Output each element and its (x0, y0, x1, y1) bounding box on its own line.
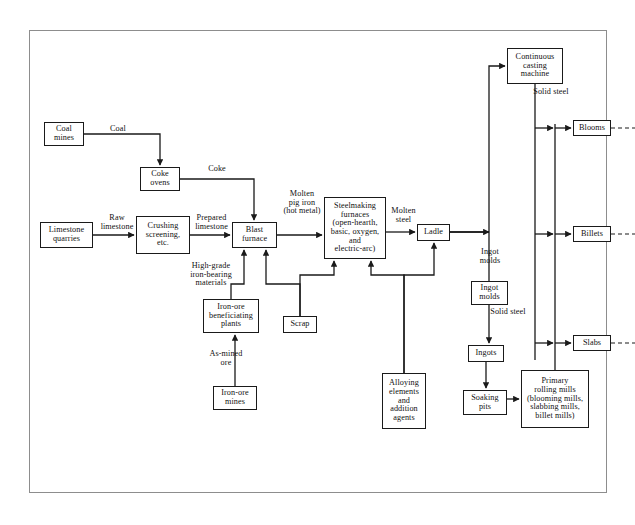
node-label-alloying: Alloying elements and addition agents (385, 379, 423, 422)
node-ingot-molds: Ingot molds (471, 281, 508, 305)
node-scrap: Scrap (283, 316, 317, 333)
node-label-ingot-molds: Ingot molds (474, 284, 505, 301)
node-label-coal-mines: Coal mines (47, 125, 81, 142)
edge-label-coke: Coke (199, 165, 235, 174)
node-limestone-quarries: Limestone quarries (40, 222, 93, 248)
node-blooms: Blooms (573, 120, 611, 136)
node-coal-mines: Coal mines (44, 122, 84, 146)
node-crushing: Crushing screening, etc. (136, 216, 190, 254)
node-label-iron-ore-benef: Iron-ore beneficiating plants (206, 303, 256, 329)
node-soaking-pits: Soaking pits (463, 390, 507, 415)
node-label-coke-ovens: Coke ovens (143, 170, 177, 187)
edge-label-raw-limestone: Raw limestone (94, 214, 140, 231)
node-label-limestone-quarries: Limestone quarries (43, 226, 90, 243)
node-label-ingots: Ingots (471, 349, 501, 358)
node-blast-furnace: Blast furnace (232, 222, 277, 248)
edge-label-coal: Coal (100, 125, 136, 134)
edge-label-ingot-molds-lbl: Ingot molds (472, 248, 508, 265)
node-label-blast-furnace: Blast furnace (235, 226, 274, 243)
node-slabs: Slabs (573, 335, 611, 351)
node-label-steelmaking: Steelmaking furnaces (open-hearth, basic… (327, 202, 383, 254)
node-coke-ovens: Coke ovens (140, 167, 180, 191)
node-iron-ore-benef: Iron-ore beneficiating plants (203, 299, 259, 333)
node-label-slabs: Slabs (576, 339, 608, 348)
node-ladle: Ladle (417, 224, 450, 241)
node-label-soaking-pits: Soaking pits (466, 394, 504, 411)
node-label-billets: Billets (576, 230, 608, 239)
edge-label-solid-steel-top: Solid steel (527, 88, 575, 97)
node-label-primary-rolling: Primary rolling mills (blooming mills, s… (524, 377, 586, 420)
edge-label-molten-steel: Molten steel (386, 207, 421, 224)
node-billets: Billets (573, 226, 611, 242)
node-alloying: Alloying elements and addition agents (382, 373, 426, 429)
node-label-iron-ore-mines: Iron-ore mines (216, 389, 254, 406)
node-label-crushing: Crushing screening, etc. (139, 222, 187, 248)
flowchart-canvas: Coal minesCoke ovensLimestone quarriesCr… (0, 0, 635, 525)
edge-label-solid-steel-mid: Solid steel (484, 308, 532, 317)
node-label-scrap: Scrap (286, 320, 314, 329)
node-steelmaking: Steelmaking furnaces (open-hearth, basic… (324, 197, 386, 259)
node-primary-rolling: Primary rolling mills (blooming mills, s… (521, 370, 589, 428)
node-ingots: Ingots (468, 345, 504, 362)
edge-label-prepared-limestone: Prepared limestone (188, 214, 235, 231)
node-label-ladle: Ladle (420, 228, 447, 237)
edge-label-high-grade: High-grade iron-bearing materials (183, 262, 239, 288)
node-continuous-casting: Continuous casting machine (507, 48, 563, 84)
node-label-blooms: Blooms (576, 124, 608, 133)
edge-label-as-mined-ore: As-mined ore (204, 350, 248, 367)
node-iron-ore-mines: Iron-ore mines (213, 386, 257, 410)
node-label-continuous-casting: Continuous casting machine (510, 53, 560, 79)
edge-label-molten-pig-iron: Molten pig iron (hot metal) (278, 190, 326, 216)
